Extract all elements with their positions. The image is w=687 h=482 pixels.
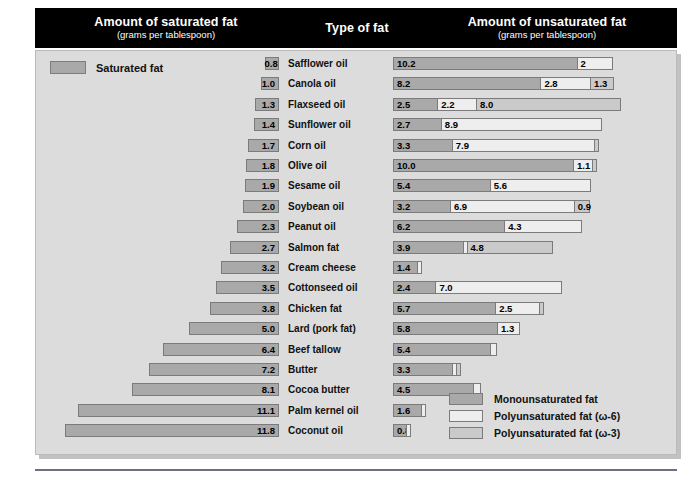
saturated-fat-value: 0.8 <box>265 57 279 70</box>
fat-type-label: Sunflower oil <box>288 117 351 132</box>
fat-type-label: Flaxseed oil <box>288 97 345 112</box>
omega6-value: 8.9 <box>441 118 602 131</box>
omega6-value: 1.1 <box>573 159 593 172</box>
monounsaturated-value: 5.8 <box>393 322 498 335</box>
saturated-fat-value: 1.3 <box>255 98 279 111</box>
omega3-value: 4.8 <box>467 241 554 254</box>
monounsaturated-value: 10.2 <box>393 57 578 70</box>
fat-type-label: Beef tallow <box>288 342 341 357</box>
omega6-segment <box>406 424 411 437</box>
fat-type-label: Soybean oil <box>288 199 344 214</box>
table-row: 3.2Cream cheese1.4 <box>36 261 678 274</box>
saturated-fat-value: 11.1 <box>78 404 279 417</box>
chart-legend: Monounsaturated fat Polyunsaturated fat … <box>449 393 664 444</box>
bottom-rule <box>35 469 677 471</box>
legend-item-omega3: Polyunsaturated fat (ω-3) <box>449 427 664 439</box>
saturated-fat-value: 2.3 <box>237 220 279 233</box>
table-row: 6.4Beef tallow5.4 <box>36 343 678 356</box>
omega6-value: 6.9 <box>450 200 575 213</box>
saturated-fat-value: 8.1 <box>132 383 279 396</box>
fat-type-label: Lard (pork fat) <box>288 321 356 336</box>
omega6-value: 2 <box>577 57 613 70</box>
fat-type-label: Corn oil <box>288 138 326 153</box>
omega6-value: 1.3 <box>497 322 521 335</box>
omega6-value: 2.8 <box>540 77 591 90</box>
omega3-segment <box>592 159 597 172</box>
fat-type-label: Olive oil <box>288 158 327 173</box>
table-row: 2.0Soybean oil3.26.90.9 <box>36 200 678 213</box>
omega3-value: 0.9 <box>574 200 590 213</box>
table-row: 1.7Corn oil3.37.9 <box>36 139 678 152</box>
header-unsaturated-title: Amount of unsaturated fat <box>468 15 627 29</box>
table-row: 3.5Cottonseed oil2.47.0 <box>36 281 678 294</box>
table-row: 1.0Canola oil8.22.81.3 <box>36 77 678 90</box>
omega6-value: 7.0 <box>435 281 562 294</box>
legend-label-omega3: Polyunsaturated fat (ω-3) <box>494 427 620 439</box>
saturated-fat-value: 2.7 <box>230 241 279 254</box>
monounsaturated-value: 0.8 <box>393 424 407 437</box>
saturated-fat-value: 3.2 <box>221 261 279 274</box>
table-row: 1.4Sunflower oil2.78.9 <box>36 118 678 131</box>
fat-type-label: Peanut oil <box>288 219 336 234</box>
omega6-value: 2.5 <box>495 302 540 315</box>
fat-type-label: Cream cheese <box>288 260 356 275</box>
omega6-segment <box>490 343 497 356</box>
header-unsaturated: Amount of unsaturated fat (grams per tab… <box>417 8 677 48</box>
fat-comparison-figure: Amount of saturated fat (grams per table… <box>0 0 687 482</box>
saturated-fat-value: 3.5 <box>216 281 279 294</box>
monounsaturated-value: 3.9 <box>393 241 464 254</box>
omega3-value: 8.0 <box>476 98 621 111</box>
table-row: 3.8Chicken fat5.72.5 <box>36 302 678 315</box>
saturated-fat-value: 3.8 <box>210 302 279 315</box>
monounsaturated-value: 8.2 <box>393 77 541 90</box>
monounsaturated-value: 1.4 <box>393 261 418 274</box>
fat-type-label: Chicken fat <box>288 301 342 316</box>
monounsaturated-value: 6.2 <box>393 220 505 233</box>
monounsaturated-value: 3.2 <box>393 200 451 213</box>
legend-item-mono: Monounsaturated fat <box>449 393 664 405</box>
chart-panel: Saturated fat 0.8Safflower oil10.221.0Ca… <box>35 50 677 455</box>
fat-type-label: Coconut oil <box>288 423 343 438</box>
saturated-fat-value: 5.0 <box>189 322 280 335</box>
omega6-value: 2.2 <box>437 98 477 111</box>
omega6-swatch <box>449 410 483 422</box>
omega6-segment <box>421 404 426 417</box>
mono-swatch <box>449 393 483 405</box>
table-row: 2.7Salmon fat3.94.8 <box>36 241 678 254</box>
fat-type-label: Canola oil <box>288 76 336 91</box>
saturated-fat-value: 1.8 <box>246 159 279 172</box>
omega6-segment <box>417 261 422 274</box>
saturated-fat-value: 1.4 <box>254 118 279 131</box>
omega3-swatch <box>449 427 483 439</box>
omega3-value: 1.3 <box>590 77 614 90</box>
monounsaturated-value: 3.3 <box>393 363 453 376</box>
omega6-value: 7.9 <box>452 139 595 152</box>
monounsaturated-value: 1.6 <box>393 404 422 417</box>
saturated-fat-value: 6.4 <box>163 343 279 356</box>
fat-type-label: Cocoa butter <box>288 382 350 397</box>
saturated-fat-value: 1.9 <box>245 179 279 192</box>
table-row: 5.0Lard (pork fat)5.81.3 <box>36 322 678 335</box>
header-saturated-title: Amount of saturated fat <box>94 15 237 29</box>
monounsaturated-value: 5.4 <box>393 179 491 192</box>
legend-label-mono: Monounsaturated fat <box>494 393 598 405</box>
monounsaturated-value: 3.3 <box>393 139 453 152</box>
omega3-segment <box>539 302 544 315</box>
chart-header-band: Amount of saturated fat (grams per table… <box>35 8 677 48</box>
omega3-segment <box>594 139 599 152</box>
fat-type-label: Cottonseed oil <box>288 280 357 295</box>
table-row: 2.3Peanut oil6.24.3 <box>36 220 678 233</box>
header-saturated: Amount of saturated fat (grams per table… <box>35 8 297 48</box>
monounsaturated-value: 2.4 <box>393 281 436 294</box>
header-saturated-subtitle: (grams per tablespoon) <box>117 30 215 41</box>
fat-type-label: Butter <box>288 362 317 377</box>
monounsaturated-value: 10.0 <box>393 159 574 172</box>
saturated-fat-value: 1.0 <box>261 77 279 90</box>
table-row: 0.8Safflower oil10.22 <box>36 57 678 70</box>
header-unsaturated-subtitle: (grams per tablespoon) <box>498 30 596 41</box>
legend-item-omega6: Polyunsaturated fat (ω-6) <box>449 410 664 422</box>
table-row: 1.9Sesame oil5.45.6 <box>36 179 678 192</box>
table-row: 1.8Olive oil10.01.1 <box>36 159 678 172</box>
fat-type-label: Palm kernel oil <box>288 403 359 418</box>
saturated-fat-value: 7.2 <box>149 363 279 376</box>
